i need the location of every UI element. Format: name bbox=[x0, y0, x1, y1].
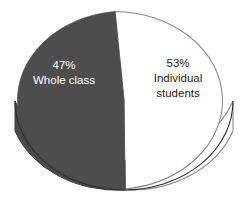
pie-slice-dark-top bbox=[17, 12, 125, 190]
pie-chart-figure: 47% Whole class 53% Individual students bbox=[0, 0, 246, 213]
pie-chart-graphic bbox=[0, 0, 246, 213]
